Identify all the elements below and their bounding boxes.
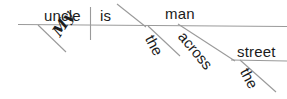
diagram-word-predicate-nominative: man <box>165 6 195 21</box>
prep-object-baseline <box>231 60 287 61</box>
predicate-nominative-slant <box>117 4 146 27</box>
diagram-word-verb: is <box>100 8 111 23</box>
diagram-word-prep-object: street <box>237 44 276 59</box>
sentence-diagram: uncle is man street My the across the <box>0 0 287 99</box>
